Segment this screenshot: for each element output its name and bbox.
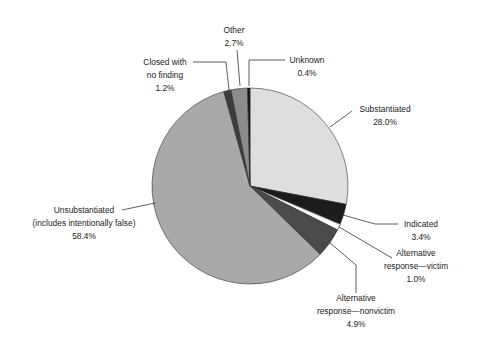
label-substantiated: Substantiated28.0% xyxy=(359,104,411,127)
label-unknown: Unknown0.4% xyxy=(290,55,325,78)
slice-label-text: response—victim xyxy=(384,261,448,271)
leader-line-alternative-response-victim xyxy=(339,227,392,258)
slice-label-text: Indicated xyxy=(404,219,438,229)
label-unsubstantiated-includes-intentionally-false: Unsubstantiated(includes intentionally f… xyxy=(33,205,136,241)
slice-percent: 2.7% xyxy=(224,38,244,48)
pie-slices xyxy=(152,88,348,284)
slice-percent: 0.4% xyxy=(297,68,317,78)
leader-line-unsubstantiated-includes-intentionally-false xyxy=(122,203,155,210)
slice-label-text: Alternative xyxy=(396,248,436,258)
leader-line-alternative-response-nonvictim xyxy=(330,243,356,293)
slice-label-text: (includes intentionally false) xyxy=(33,218,136,228)
slice-percent: 3.4% xyxy=(411,232,431,242)
leader-line-substantiated xyxy=(330,111,352,127)
slice-label-text: Closed with xyxy=(143,57,187,67)
slice-label-text: Alternative xyxy=(336,293,376,303)
slice-label-text: response—nonvictim xyxy=(317,306,395,316)
slice-substantiated xyxy=(250,88,348,204)
slice-percent: 1.2% xyxy=(155,83,175,93)
label-indicated: Indicated3.4% xyxy=(404,219,438,242)
label-other: Other2.7% xyxy=(224,25,245,48)
slice-percent: 58.4% xyxy=(72,231,96,241)
leader-line-other xyxy=(237,50,240,86)
slice-label-text: Unsubstantiated xyxy=(54,205,115,215)
slice-label-text: Unknown xyxy=(290,55,325,65)
leader-line-closed-with-no-finding xyxy=(193,62,229,90)
slice-label-text: Substantiated xyxy=(359,104,411,114)
leader-line-indicated xyxy=(343,215,398,224)
slice-label-text: no finding xyxy=(147,70,184,80)
label-alternative-response-nonvictim: Alternativeresponse—nonvictim4.9% xyxy=(317,293,395,329)
slice-label-text: Other xyxy=(224,25,245,35)
label-alternative-response-victim: Alternativeresponse—victim1.0% xyxy=(384,248,448,284)
slice-percent: 1.0% xyxy=(406,274,426,284)
slice-percent: 28.0% xyxy=(373,117,397,127)
label-closed-with-no-finding: Closed withno finding1.2% xyxy=(143,57,187,93)
slice-percent: 4.9% xyxy=(346,319,366,329)
leader-line-unknown xyxy=(249,60,285,86)
pie-chart: Substantiated28.0%Indicated3.4%Alternati… xyxy=(0,0,477,344)
